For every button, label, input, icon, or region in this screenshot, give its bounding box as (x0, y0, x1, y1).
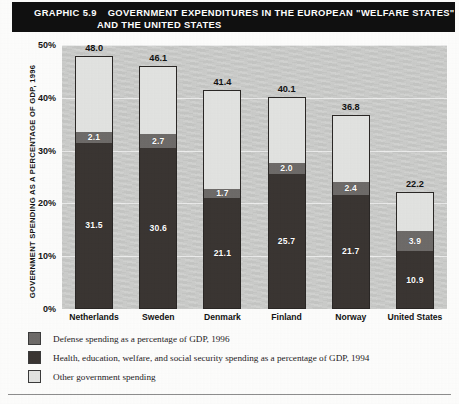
legend-label: Defense spending as a percentage of GDP,… (53, 334, 230, 344)
bar-total-value: 46.1 (128, 53, 188, 63)
y-axis-tick-label: 20% (14, 198, 56, 208)
legend-swatch-other (28, 370, 41, 383)
legend-item-defense: Defense spending as a percentage of GDP,… (28, 330, 369, 347)
x-axis-label-united-states: United States (370, 312, 459, 322)
chart-legend: Defense spending as a percentage of GDP,… (28, 330, 369, 387)
graphic-title-line-1: GRAPHIC 5.9GOVERNMENT EXPENDITURES IN TH… (34, 7, 455, 18)
y-axis-tick-label: 10% (14, 251, 56, 261)
y-axis-tick-label: 30% (14, 146, 56, 156)
legend-item-other: Other government spending (28, 368, 369, 385)
y-axis-tick-label: 50% (14, 40, 56, 50)
bar-total-value: 48.0 (64, 43, 124, 53)
graphic-title-text-1: GOVERNMENT EXPENDITURES IN THE EUROPEAN … (108, 7, 455, 18)
legend-label: Health, education, welfare, and social s… (53, 353, 369, 363)
bar-total-value: 22.2 (385, 179, 445, 189)
legend-item-health: Health, education, welfare, and social s… (28, 349, 369, 366)
legend-swatch-health (28, 351, 41, 364)
bottom-divider (8, 394, 451, 395)
graphic-title-band: GRAPHIC 5.9GOVERNMENT EXPENDITURES IN TH… (12, 2, 455, 32)
legend-swatch-defense (28, 332, 41, 345)
bar-total-value: 41.4 (192, 77, 252, 87)
bar-total-value: 36.8 (321, 102, 381, 112)
graphic-title-line-2: AND THE UNITED STATES (97, 19, 222, 30)
legend-label: Other government spending (53, 372, 156, 382)
graphic-number: GRAPHIC 5.9 (34, 7, 97, 18)
y-axis-tick-label: 40% (14, 93, 56, 103)
bar-total-value: 40.1 (257, 84, 317, 94)
